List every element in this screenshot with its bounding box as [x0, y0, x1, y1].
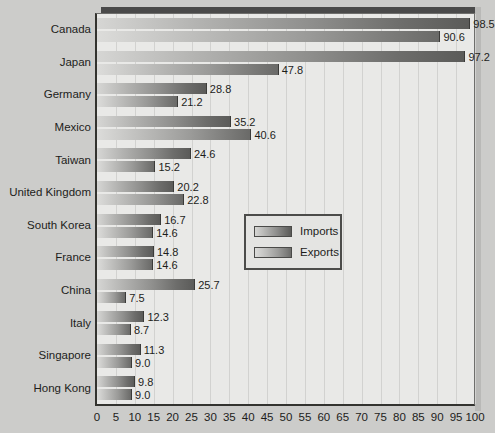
- x-axis-tick-labels: 0510152025303540455055606570758085909510…: [0, 410, 492, 430]
- bar-exports[interactable]: [97, 227, 153, 238]
- bar-exports[interactable]: [97, 194, 184, 205]
- bar-imports[interactable]: [97, 83, 207, 94]
- imports-swatch-icon: [254, 226, 292, 237]
- y-axis-label-germany: Germany: [0, 88, 91, 100]
- bar-exports[interactable]: [97, 64, 279, 75]
- bar-imports[interactable]: [97, 344, 141, 355]
- bar-series-layer: 98.590.697.247.828.821.235.240.624.615.2…: [97, 14, 474, 404]
- bar-imports[interactable]: [97, 214, 161, 225]
- x-axis-tick-95: 95: [450, 410, 463, 424]
- bar-group: 24.615.2: [97, 144, 474, 177]
- bar-group: 12.38.7: [97, 307, 474, 340]
- bar-group: 11.39.0: [97, 340, 474, 373]
- bar-imports[interactable]: [97, 18, 470, 29]
- bar-value-label: 97.2: [468, 52, 489, 63]
- bar-exports[interactable]: [97, 129, 251, 140]
- bar-exports[interactable]: [97, 31, 440, 42]
- x-axis-tick-55: 55: [298, 410, 311, 424]
- bar-value-label: 25.7: [198, 280, 219, 291]
- bar-value-label: 98.5: [473, 19, 494, 30]
- y-axis-label-hong-kong: Hong Kong: [0, 382, 91, 394]
- bar-exports[interactable]: [97, 357, 132, 368]
- legend-item-exports[interactable]: Exports: [254, 246, 339, 258]
- x-axis-tick-15: 15: [147, 410, 160, 424]
- y-axis-label-italy: Italy: [0, 317, 91, 329]
- bar-value-label: 20.2: [177, 182, 198, 193]
- x-axis-tick-35: 35: [223, 410, 236, 424]
- x-axis-tick-65: 65: [336, 410, 349, 424]
- bar-imports[interactable]: [97, 376, 135, 387]
- x-axis-tick-75: 75: [374, 410, 387, 424]
- bar-value-label: 24.6: [194, 149, 215, 160]
- legend-label-exports: Exports: [300, 246, 339, 258]
- bar-imports[interactable]: [97, 181, 174, 192]
- bar-value-label: 47.8: [282, 65, 303, 76]
- chart-legend: Imports Exports: [244, 214, 342, 270]
- x-axis-tick-45: 45: [261, 410, 274, 424]
- exports-swatch-icon: [254, 247, 292, 258]
- bar-exports[interactable]: [97, 161, 155, 172]
- x-axis-tick-100: 100: [465, 410, 484, 424]
- x-axis-tick-90: 90: [431, 410, 444, 424]
- bar-value-label: 8.7: [134, 325, 149, 336]
- bar-value-label: 40.6: [254, 130, 275, 141]
- y-axis-label-france: France: [0, 251, 91, 263]
- bar-group: 25.77.5: [97, 275, 474, 308]
- bar-value-label: 22.8: [187, 195, 208, 206]
- bar-value-label: 9.0: [135, 390, 150, 401]
- x-axis-tick-0: 0: [94, 410, 100, 424]
- x-axis-tick-85: 85: [412, 410, 425, 424]
- y-axis-label-canada: Canada: [0, 23, 91, 35]
- x-axis-tick-30: 30: [204, 410, 217, 424]
- bar-exports[interactable]: [97, 292, 126, 303]
- y-axis-label-south-korea: South Korea: [0, 219, 91, 231]
- y-axis-label-singapore: Singapore: [0, 349, 91, 361]
- y-axis-label-china: China: [0, 284, 91, 296]
- bar-exports[interactable]: [97, 259, 153, 270]
- bar-imports[interactable]: [97, 311, 144, 322]
- bar-value-label: 90.6: [443, 32, 464, 43]
- bar-imports[interactable]: [97, 279, 195, 290]
- x-axis-tick-10: 10: [128, 410, 141, 424]
- x-axis-tick-60: 60: [317, 410, 330, 424]
- bar-value-label: 9.8: [138, 377, 153, 388]
- bar-exports[interactable]: [97, 96, 178, 107]
- x-axis-tick-5: 5: [113, 410, 119, 424]
- bar-exports[interactable]: [97, 324, 131, 335]
- y-axis-label-japan: Japan: [0, 56, 91, 68]
- bar-imports[interactable]: [97, 116, 231, 127]
- x-axis-tick-20: 20: [166, 410, 179, 424]
- bar-imports[interactable]: [97, 51, 465, 62]
- y-axis-label-taiwan: Taiwan: [0, 154, 91, 166]
- bar-value-label: 35.2: [234, 117, 255, 128]
- y-axis-category-labels: CanadaJapanGermanyMexicoTaiwanUnited Kin…: [0, 13, 91, 406]
- bar-value-label: 14.6: [156, 260, 177, 271]
- x-axis-tick-40: 40: [242, 410, 255, 424]
- x-axis-tick-50: 50: [280, 410, 293, 424]
- legend-item-imports[interactable]: Imports: [254, 225, 338, 237]
- bar-value-label: 15.2: [158, 162, 179, 173]
- bar-group: 28.821.2: [97, 79, 474, 112]
- plot-area: 98.590.697.247.828.821.235.240.624.615.2…: [95, 13, 475, 406]
- bar-value-label: 16.7: [164, 215, 185, 226]
- bar-value-label: 14.8: [157, 247, 178, 258]
- bar-imports[interactable]: [97, 246, 154, 257]
- bar-value-label: 21.2: [181, 97, 202, 108]
- bar-imports[interactable]: [97, 148, 191, 159]
- legend-label-imports: Imports: [300, 225, 338, 237]
- bar-group: 97.247.8: [97, 47, 474, 80]
- bar-value-label: 9.0: [135, 358, 150, 369]
- bar-value-label: 28.8: [210, 84, 231, 95]
- x-axis-tick-80: 80: [393, 410, 406, 424]
- y-axis-label-united-kingdom: United Kingdom: [0, 186, 91, 198]
- bar-value-label: 12.3: [147, 312, 168, 323]
- x-axis-tick-25: 25: [185, 410, 198, 424]
- bar-value-label: 14.6: [156, 228, 177, 239]
- bar-group: 98.590.6: [97, 14, 474, 47]
- gridline: [475, 14, 476, 404]
- bar-value-label: 11.3: [144, 345, 165, 356]
- bar-exports[interactable]: [97, 389, 132, 400]
- bar-value-label: 7.5: [129, 293, 144, 304]
- y-axis-label-mexico: Mexico: [0, 121, 91, 133]
